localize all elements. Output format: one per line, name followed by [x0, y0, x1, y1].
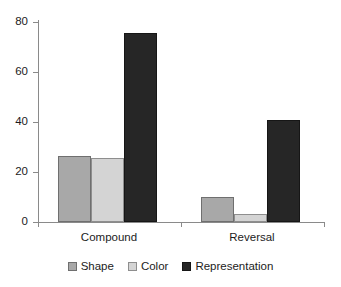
legend-item-shape: Shape: [68, 260, 114, 272]
legend-label-color: Color: [141, 260, 168, 272]
bar-compound-representation: [124, 33, 157, 222]
x-axis-label-reversal: Reversal: [207, 231, 297, 244]
x-axis-tick-left: [38, 222, 39, 227]
shape-swatch-icon: [68, 262, 77, 271]
bar-compound-shape: [58, 156, 91, 222]
y-axis-label-60: 60: [0, 66, 28, 78]
y-axis-label-20: 20: [0, 166, 28, 178]
x-axis-tick-middle: [181, 222, 182, 227]
y-axis-label-0: 0: [0, 216, 28, 228]
plot-area: [38, 18, 325, 222]
bar-reversal-representation: [267, 120, 300, 222]
bar-compound-color: [91, 158, 124, 222]
bar-reversal-color: [234, 214, 267, 222]
legend-item-representation: Representation: [182, 260, 273, 272]
y-axis-label-80: 80: [0, 16, 28, 28]
representation-swatch-icon: [182, 262, 191, 271]
legend-label-representation: Representation: [195, 260, 273, 272]
y-axis-label-40: 40: [0, 116, 28, 128]
bar-chart: 80 60 40 20 0 Compound Reversal Shape Co…: [0, 0, 341, 287]
legend-item-color: Color: [128, 260, 168, 272]
bar-reversal-shape: [201, 197, 234, 223]
x-axis-label-compound: Compound: [64, 231, 154, 244]
color-swatch-icon: [128, 262, 137, 271]
chart-legend: Shape Color Representation: [0, 260, 341, 272]
x-axis-tick-right: [324, 222, 325, 227]
legend-label-shape: Shape: [81, 260, 114, 272]
